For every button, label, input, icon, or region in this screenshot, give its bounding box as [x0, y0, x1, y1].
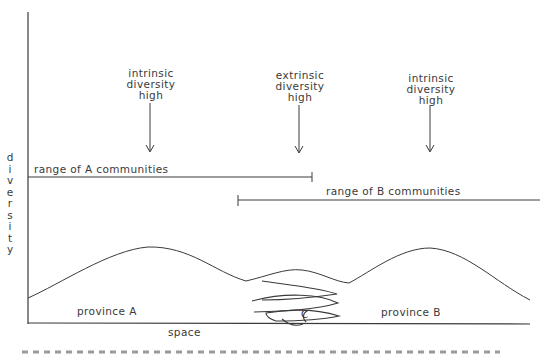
annotation-line: high	[118, 90, 184, 101]
x-axis	[28, 323, 530, 324]
annotation-line: high	[262, 92, 338, 103]
overlap-zone-c	[252, 281, 339, 325]
y-axis-letter: v	[4, 175, 16, 187]
y-axis-letter: i	[4, 221, 16, 233]
annotation-line: high	[398, 95, 464, 106]
arrow-down-icon	[426, 105, 434, 152]
annotation-intrinsic-right: intrinsic diversity high	[398, 73, 464, 106]
province-a-label: province A	[77, 306, 137, 317]
y-axis-label: d i v e r s i t y	[4, 152, 16, 256]
y-axis-letter: d	[4, 152, 16, 164]
diagram-figure	[0, 0, 540, 354]
diversity-curve	[28, 247, 530, 300]
annotation-intrinsic-left: intrinsic diversity high	[118, 68, 184, 101]
range-a-label: range of A communities	[34, 164, 169, 175]
x-axis-label: space	[168, 327, 201, 338]
annotation-extrinsic-center: extrinsic diversity high	[262, 70, 338, 103]
province-b-label: province B	[381, 307, 441, 318]
arrow-down-icon	[146, 103, 154, 152]
y-axis-letter: r	[4, 198, 16, 210]
arrow-down-icon	[295, 105, 303, 153]
center-marker-c: C	[301, 309, 308, 320]
y-axis-letter: y	[4, 244, 16, 256]
range-b-label: range of B communities	[326, 186, 461, 197]
